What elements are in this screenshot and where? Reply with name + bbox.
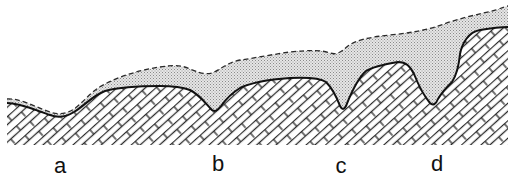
karst-profile-diagram [0,0,522,182]
label-b: b [212,153,224,175]
label-d: d [431,153,443,175]
label-a: a [54,155,66,177]
label-c: c [336,155,347,177]
